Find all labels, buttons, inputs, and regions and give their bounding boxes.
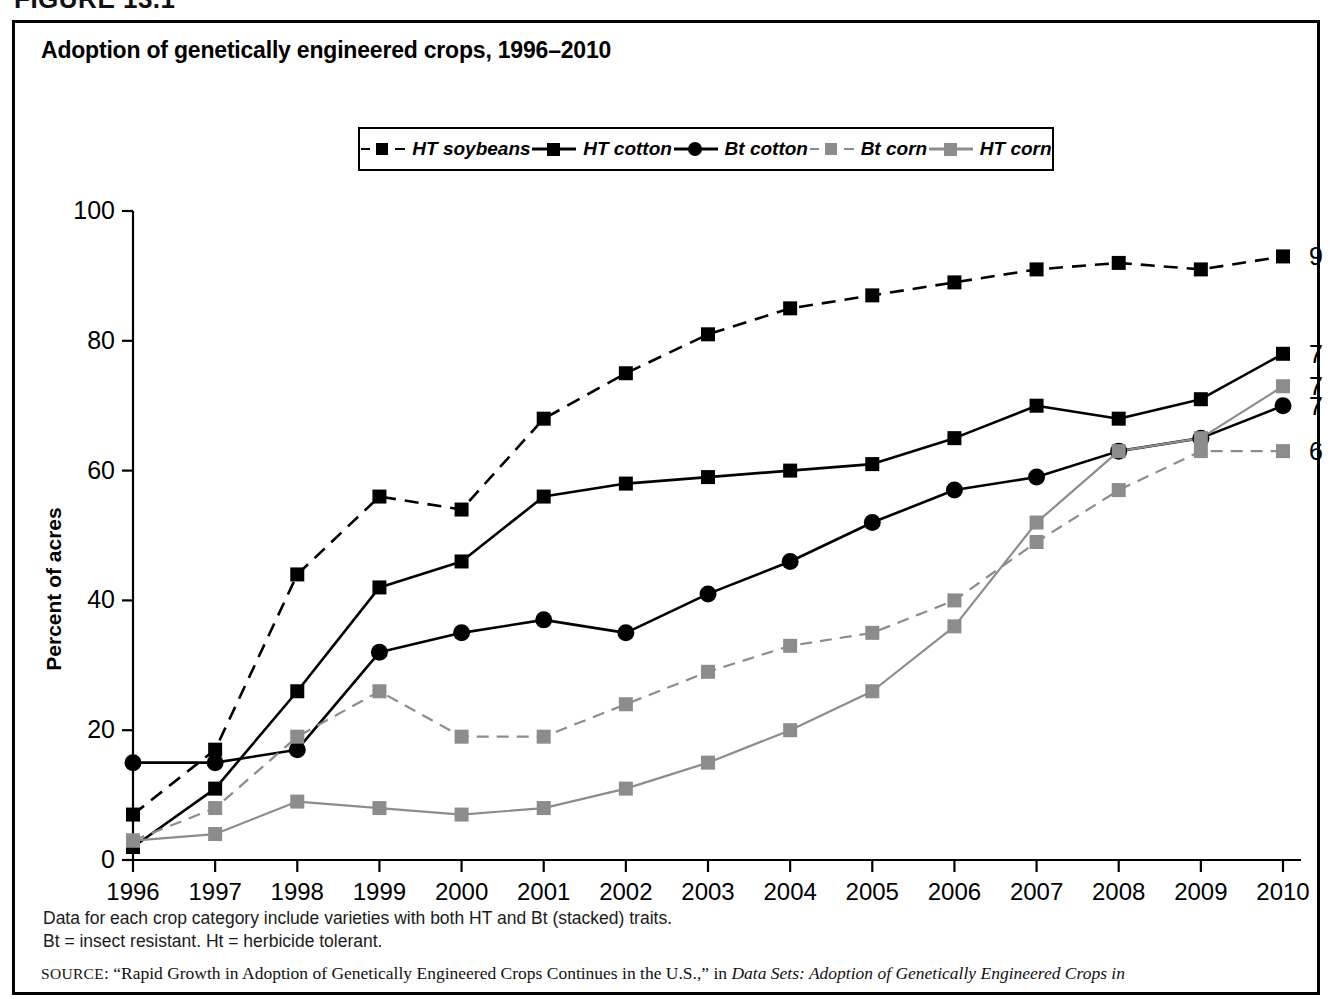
series-markers-ht-corn: [208, 827, 222, 841]
x-axis-tick-label: 1997: [188, 878, 241, 905]
series-line-bt-cotton: [133, 406, 1283, 763]
series-markers-bt-cotton: [782, 553, 799, 570]
series-markers-ht-soybeans: [1276, 249, 1290, 263]
series-markers-ht-soybeans: [290, 567, 304, 581]
end-label-ht-soybeans: 93: [1309, 242, 1323, 270]
source-text: : “Rapid Growth in Adoption of Genetical…: [104, 963, 731, 983]
legend-label-bt-corn: Bt corn: [859, 138, 928, 160]
series-markers-bt-cotton: [453, 624, 470, 641]
series-markers-ht-soybeans: [208, 743, 222, 757]
x-axis-tick-label: 2000: [435, 878, 488, 905]
source-italic-text: Data Sets: Adoption of Genetically Engin…: [731, 963, 1125, 983]
y-axis-tick-label: 60: [87, 456, 115, 484]
series-markers-ht-cotton: [1194, 392, 1208, 406]
series-markers-bt-cotton: [535, 611, 552, 628]
series-markers-bt-corn: [208, 801, 222, 815]
series-markers-bt-cotton: [864, 514, 881, 531]
legend-label-ht-corn: HT corn: [978, 138, 1052, 160]
legend-symbol-ht-soybeans: [360, 140, 406, 158]
series-markers-ht-corn: [126, 834, 140, 848]
x-axis-tick-label: 1999: [353, 878, 406, 905]
end-label-ht-corn: 73: [1309, 372, 1323, 400]
legend-symbol-bt-corn: [809, 140, 855, 158]
legend-symbol-bt-cotton: [673, 140, 719, 158]
x-axis-tick-label: 1996: [106, 878, 159, 905]
y-axis-tick-label: 40: [87, 585, 115, 613]
series-markers-ht-soybeans: [947, 275, 961, 289]
series-markers-bt-corn: [537, 730, 551, 744]
source-line: SOURCE: “Rapid Growth in Adoption of Gen…: [41, 963, 1125, 984]
series-markers-bt-cotton: [207, 754, 224, 771]
series-markers-ht-corn: [1276, 379, 1290, 393]
x-axis-tick-label: 2002: [599, 878, 652, 905]
series-markers-bt-cotton: [289, 741, 306, 758]
series-markers-ht-corn: [1030, 516, 1044, 530]
series-markers-bt-corn: [372, 684, 386, 698]
figure-box: Adoption of genetically engineered crops…: [12, 20, 1320, 995]
x-axis-tick-label: 2005: [846, 878, 899, 905]
series-markers-bt-corn: [865, 626, 879, 640]
series-line-ht-cotton: [133, 354, 1283, 847]
series-markers-bt-cotton: [1028, 469, 1045, 486]
legend-item-ht-corn[interactable]: HT corn: [928, 138, 1052, 160]
series-markers-bt-cotton: [1110, 443, 1127, 460]
series-markers-ht-cotton: [537, 490, 551, 504]
series-markers-ht-corn: [701, 756, 715, 770]
series-markers-bt-cotton: [946, 482, 963, 499]
series-markers-bt-cotton: [371, 644, 388, 661]
series-markers-ht-soybeans: [372, 490, 386, 504]
series-markers-ht-cotton: [1030, 399, 1044, 413]
series-markers-ht-cotton: [126, 840, 140, 854]
series-markers-bt-corn: [783, 639, 797, 653]
chart-legend: HT soybeans HT cotton Bt cotton Bt corn: [358, 127, 1054, 171]
series-markers-ht-cotton: [783, 464, 797, 478]
series-markers-bt-cotton: [617, 624, 634, 641]
series-markers-bt-corn: [1030, 535, 1044, 549]
x-axis-tick-label: 2006: [928, 878, 981, 905]
series-markers-bt-corn: [1194, 444, 1208, 458]
series-markers-ht-corn: [619, 782, 633, 796]
x-axis-tick-label: 2009: [1174, 878, 1227, 905]
series-markers-ht-cotton: [208, 782, 222, 796]
series-markers-ht-soybeans: [1112, 256, 1126, 270]
series-markers-ht-soybeans: [701, 327, 715, 341]
x-axis-tick-label: 2007: [1010, 878, 1063, 905]
series-markers-ht-corn: [1194, 431, 1208, 445]
series-markers-bt-corn: [290, 730, 304, 744]
x-axis-tick-label: 2010: [1256, 878, 1309, 905]
series-markers-ht-corn: [1112, 444, 1126, 458]
series-markers-bt-cotton: [1275, 397, 1292, 414]
series-markers-ht-soybeans: [865, 288, 879, 302]
series-markers-ht-cotton: [1112, 412, 1126, 426]
x-axis-tick-label: 2004: [763, 878, 816, 905]
series-markers-bt-cotton: [1192, 430, 1209, 447]
legend-item-bt-corn[interactable]: Bt corn: [809, 138, 928, 160]
x-axis-tick-label: 1998: [271, 878, 324, 905]
series-markers-ht-cotton: [372, 580, 386, 594]
legend-label-ht-cotton: HT cotton: [581, 138, 672, 160]
legend-symbol-ht-cotton: [531, 140, 577, 158]
series-line-bt-corn: [133, 451, 1283, 840]
series-markers-bt-corn: [1112, 483, 1126, 497]
series-markers-ht-soybeans: [126, 808, 140, 822]
series-markers-bt-corn: [701, 665, 715, 679]
series-markers-ht-corn: [372, 801, 386, 815]
series-markers-ht-soybeans: [783, 301, 797, 315]
series-markers-ht-corn: [783, 723, 797, 737]
figure-number-heading: FIGURE 13.1: [14, 0, 176, 15]
series-markers-ht-cotton: [619, 477, 633, 491]
legend-item-ht-cotton[interactable]: HT cotton: [531, 138, 672, 160]
x-axis-tick-label: 2008: [1092, 878, 1145, 905]
legend-item-bt-cotton[interactable]: Bt cotton: [673, 138, 808, 160]
series-markers-ht-cotton: [865, 457, 879, 471]
series-markers-ht-cotton: [455, 554, 469, 568]
legend-item-ht-soybeans[interactable]: HT soybeans: [360, 138, 530, 160]
series-markers-ht-soybeans: [1194, 262, 1208, 276]
series-markers-ht-corn: [455, 808, 469, 822]
series-markers-ht-corn: [290, 795, 304, 809]
y-axis-tick-label: 80: [87, 326, 115, 354]
end-label-bt-corn: 63: [1309, 437, 1323, 465]
series-markers-ht-cotton: [947, 431, 961, 445]
y-axis-tick-label: 100: [73, 196, 115, 224]
chart-title: Adoption of genetically engineered crops…: [41, 37, 611, 64]
